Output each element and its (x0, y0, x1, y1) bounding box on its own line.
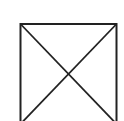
crossed-box-diagram (0, 0, 124, 121)
